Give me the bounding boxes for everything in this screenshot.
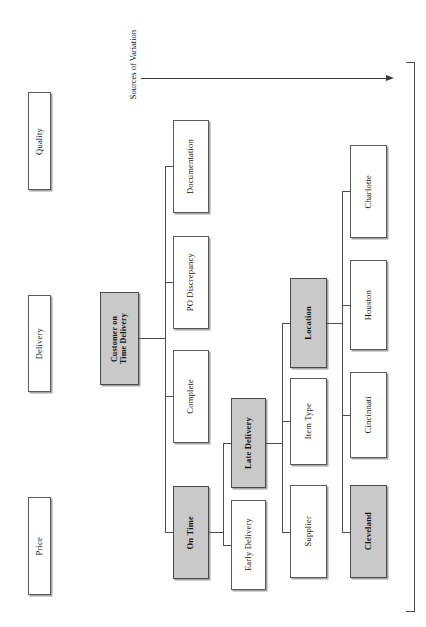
connector-l2-bus <box>165 166 166 532</box>
connector-l2-complete <box>165 396 173 397</box>
node-label-houston: Houston <box>364 290 374 320</box>
node-label-po-discrepancy: PO Discrepancy <box>186 253 196 311</box>
sources-of-variation-arrow-line <box>141 78 386 79</box>
right-bracket-bottom-tip <box>406 611 415 612</box>
diagram-canvas: Sources of Variation Quality Delivery Pr… <box>0 0 426 627</box>
connector-l4-location <box>282 323 290 324</box>
node-documentation[interactable]: Documentation <box>173 120 209 213</box>
node-supplier[interactable]: Supplier <box>290 485 327 578</box>
right-bracket-spine <box>414 62 415 612</box>
connector-l5-cincinnati <box>342 415 350 416</box>
node-item-type[interactable]: Item Type <box>290 378 327 465</box>
node-label-complete: Complete <box>186 379 196 414</box>
node-label-cleveland: Cleveland <box>364 512 374 550</box>
connector-l5-cleveland <box>342 532 350 533</box>
node-late-delivery[interactable]: Late Delivery <box>231 398 266 488</box>
connector-l3-bus <box>223 443 224 545</box>
node-label-location: Location <box>304 306 314 340</box>
node-location[interactable]: Location <box>290 278 327 368</box>
category-label-quality: Quality <box>35 128 45 155</box>
node-label-late-delivery: Late Delivery <box>244 417 254 469</box>
node-early-delivery[interactable]: Early Delivery <box>231 500 266 590</box>
connector-l4-supplier <box>282 532 290 533</box>
node-label-customer-on-time-delivery: Customer on Time Delivery <box>110 313 128 364</box>
connector-on-time-stub <box>209 532 223 533</box>
category-box-quality[interactable]: Quality <box>28 92 51 190</box>
connector-l1-stub <box>139 338 165 339</box>
node-label-documentation: Documentation <box>186 139 196 194</box>
connector-l2-po-discrepancy <box>165 282 173 283</box>
connector-l3-early-delivery <box>223 545 231 546</box>
axis-label-sources-of-variation: Sources of Variation <box>128 30 138 99</box>
category-box-delivery[interactable]: Delivery <box>28 295 51 392</box>
category-label-delivery: Delivery <box>35 328 45 359</box>
connector-location-stub <box>327 323 342 324</box>
connector-late-delivery-stub <box>266 443 282 444</box>
node-cleveland[interactable]: Cleveland <box>350 485 387 578</box>
connector-l4-item-type <box>282 421 290 422</box>
node-on-time[interactable]: On Time <box>173 486 209 579</box>
node-houston[interactable]: Houston <box>350 260 387 350</box>
sources-of-variation-arrow-head <box>386 75 394 81</box>
node-po-discrepancy[interactable]: PO Discrepancy <box>173 236 209 329</box>
category-box-price[interactable]: Price <box>28 497 51 595</box>
node-label-cincinnati: Cincinnati <box>364 396 374 433</box>
node-label-item-type: Item Type <box>304 403 314 439</box>
connector-l5-bus <box>342 191 343 532</box>
node-complete[interactable]: Complete <box>173 350 209 443</box>
connector-l2-on-time <box>165 532 173 533</box>
node-charlotte[interactable]: Charlotte <box>350 145 387 238</box>
node-label-supplier: Supplier <box>304 516 314 546</box>
category-label-price: Price <box>35 537 45 555</box>
connector-l5-houston <box>342 305 350 306</box>
connector-l4-bus <box>282 323 283 532</box>
node-cincinnati[interactable]: Cincinnati <box>350 372 387 458</box>
connector-l5-charlotte <box>342 191 350 192</box>
node-label-charlotte: Charlotte <box>364 175 374 208</box>
right-bracket <box>406 62 416 612</box>
node-customer-on-time-delivery[interactable]: Customer on Time Delivery <box>100 292 139 385</box>
connector-l3-late-delivery <box>223 443 231 444</box>
connector-l2-documentation <box>165 166 173 167</box>
node-label-on-time: On Time <box>186 516 196 549</box>
node-label-early-delivery: Early Delivery <box>244 518 254 571</box>
